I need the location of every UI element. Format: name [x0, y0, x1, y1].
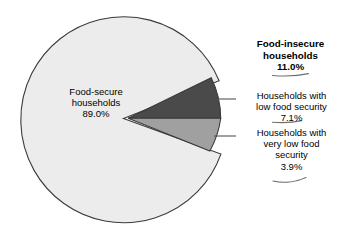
- group-label-food-insecure-line2: households: [238, 50, 343, 62]
- slice-label-very-low-food-security-line1: Households with: [240, 127, 343, 138]
- slice-label-low-food-security-line1: Households with: [240, 90, 343, 101]
- slice-label-low-food-security: Households with low food security 7.1%: [240, 90, 343, 124]
- slice-value-food-secure: 89.0%: [44, 108, 148, 119]
- slice-label-food-secure: Food-secure households 89.0%: [44, 86, 148, 120]
- slice-label-very-low-food-security-line3: security: [240, 149, 343, 160]
- slice-label-very-low-food-security-line2: very low food: [240, 138, 343, 149]
- underline-swoosh-food-insecure: [273, 74, 309, 76]
- slice-value-low-food-security: 7.1%: [240, 112, 343, 123]
- group-label-food-insecure-line1: Food-insecure: [238, 38, 343, 50]
- slice-label-very-low-food-security: Households with very low food security 3…: [240, 127, 343, 172]
- slice-label-food-secure-line2: households: [44, 97, 148, 108]
- underline-swoosh-very-low-food-security: [273, 178, 306, 183]
- slice-label-low-food-security-line2: low food security: [240, 101, 343, 112]
- pie-chart-figure: Food-secure households 89.0% Food-insecu…: [0, 0, 345, 238]
- group-label-food-insecure: Food-insecure households 11.0%: [238, 38, 343, 73]
- slice-value-very-low-food-security: 3.9%: [240, 161, 343, 172]
- slice-label-food-secure-line1: Food-secure: [44, 86, 148, 97]
- group-value-food-insecure: 11.0%: [238, 61, 343, 73]
